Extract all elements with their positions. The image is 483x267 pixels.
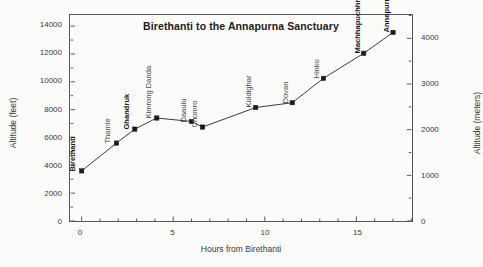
y-tick-label-left: 2000 (16, 189, 62, 198)
altitude-profile-chart: Birethanti to the Annapurna Sanctuary Al… (0, 0, 483, 267)
data-point-marker (391, 30, 395, 34)
y-tick-label-left: 6000 (16, 133, 62, 142)
point-label: Birethanti (69, 137, 77, 172)
y-tick-label-right: 1000 (421, 171, 467, 180)
y-tick-label-left: 12000 (16, 48, 62, 57)
y-tick-label-left: 8000 (16, 105, 62, 114)
x-tick-label: 15 (338, 228, 378, 237)
y-tick-label-left: 14000 (16, 20, 62, 29)
x-tick-label: 5 (153, 228, 193, 237)
data-point-marker (79, 169, 83, 173)
data-point-marker (200, 125, 204, 129)
y-tick-label-right: 2000 (421, 125, 467, 134)
point-label: Thamle (104, 119, 112, 144)
point-label: Kimrong Danda (145, 66, 153, 119)
point-label: Hinko (313, 59, 321, 78)
y-tick-label-left: 0 (16, 217, 62, 226)
point-label: Annapurna Base Camp (384, 0, 392, 32)
data-point-marker (290, 101, 294, 105)
y-tick-label-left: 4000 (16, 161, 62, 170)
point-label: Chomro (191, 101, 199, 128)
point-label: Daaulu (180, 98, 188, 122)
point-label: Machhapuchhre Base Camp (354, 0, 362, 53)
data-point-marker (253, 105, 257, 109)
x-tick-label: 0 (60, 228, 100, 237)
y-tick-label-right: 4000 (421, 33, 467, 42)
point-label: Ghandruk (123, 94, 131, 130)
y-axis-left-title: Altitude (feet) (8, 83, 18, 163)
data-point-marker (155, 116, 159, 120)
data-point-marker (321, 76, 325, 80)
point-label: Dovan (282, 81, 290, 103)
y-tick-label-left: 10000 (16, 76, 62, 85)
y-axis-right-title: Altitude (meters) (472, 83, 482, 163)
x-tick-label: 10 (245, 228, 285, 237)
data-point-marker (133, 127, 137, 131)
y-tick-label-right: 3000 (421, 79, 467, 88)
y-tick-label-right: 0 (421, 217, 467, 226)
point-label: Kuldighar (245, 76, 253, 108)
x-axis-title: Hours from Birethanti (69, 244, 413, 254)
data-point-marker (114, 141, 118, 145)
